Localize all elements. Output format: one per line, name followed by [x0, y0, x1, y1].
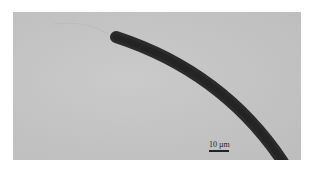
scale-bar-line: [209, 150, 229, 152]
scale-bar: 10 µm: [209, 141, 230, 152]
micrograph-image: [13, 12, 301, 160]
filament-graphic: [13, 12, 301, 160]
scale-bar-label: 10 µm: [209, 140, 230, 149]
